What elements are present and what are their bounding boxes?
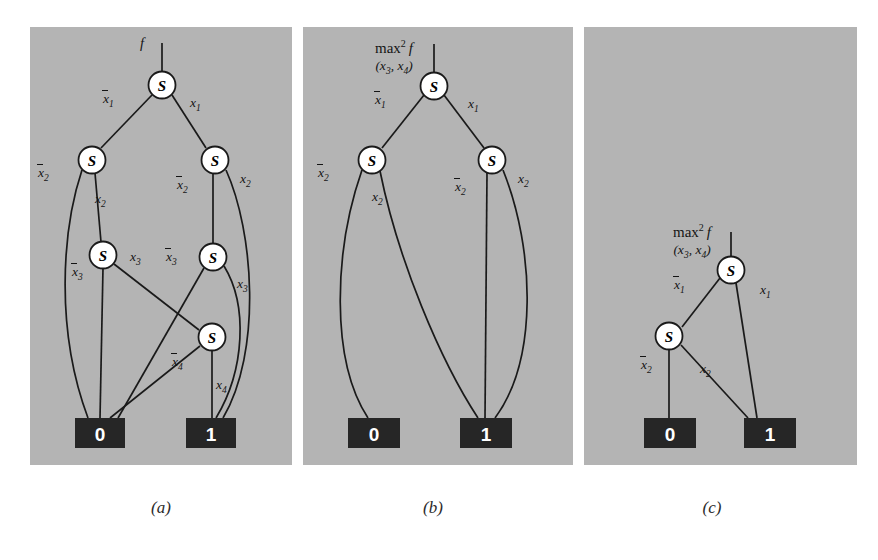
panel-a-terminal-0-label: 0 xyxy=(95,424,106,445)
panel-a-label-x2-pos-left: x2 xyxy=(95,192,106,209)
panel-c-terminal-1-label: 1 xyxy=(765,424,776,445)
panel-c-label-x1-pos: x1 xyxy=(760,283,771,300)
panel-a-root-function-label: f xyxy=(140,35,144,52)
panel-b-max-sup: 2 xyxy=(401,38,406,49)
panel-c-terminal-0-label: 0 xyxy=(665,424,676,445)
panel-c-label-x2-pos: x2 xyxy=(700,362,711,379)
panel-a-node-2-label: S xyxy=(88,153,96,169)
panel-b-root-max-label: max2 f (x3, x4) xyxy=(352,38,436,77)
panel-c-root-max-label: max2 f (x3, x4) xyxy=(650,222,734,261)
panel-c-max-sup: 2 xyxy=(699,222,704,233)
panel-b-max-text: max xyxy=(375,40,401,56)
panel-c-max-args: (x3, x4) xyxy=(650,242,734,261)
panel-b-node-1-label: S xyxy=(430,79,438,95)
panel-b-node-2-label: S xyxy=(368,153,376,169)
panel-a-node-1-label: S xyxy=(158,78,166,94)
panel-a-node-5-label: S xyxy=(209,250,217,266)
panel-c-max-fn: f xyxy=(707,224,711,240)
panel-a-node-4-label: S xyxy=(99,248,107,264)
panel-a-node-3-label: S xyxy=(211,153,219,169)
panel-a-node-6-label: S xyxy=(208,330,216,346)
panel-a-label-x1-neg: x1 xyxy=(103,92,114,109)
panel-c-label-x2-neg: x2 xyxy=(641,358,652,375)
panel-b-label-x2-pos-left: x2 xyxy=(372,190,383,207)
panel-b-label-x2-pos-right: x2 xyxy=(518,172,529,189)
panel-b-terminal-0-label: 0 xyxy=(369,424,380,445)
panel-b-node-3-label: S xyxy=(488,153,496,169)
panel-a-label-x2-neg-right: x2 xyxy=(177,178,188,195)
panel-c-label-x1-neg: x1 xyxy=(674,278,685,295)
panel-b-label-x2-neg-right: x2 xyxy=(455,180,466,197)
panel-a-label-x2-pos-right: x2 xyxy=(240,172,251,189)
panel-a-label-x3-neg-left: x3 xyxy=(72,265,83,282)
panel-b-max-args: (x3, x4) xyxy=(352,58,436,77)
panel-b-label-x1-pos: x1 xyxy=(468,97,479,114)
panel-b-terminal-1-label: 1 xyxy=(481,424,492,445)
panel-a-label-x1-pos: x1 xyxy=(190,96,201,113)
panel-c-node-1-label: S xyxy=(727,263,735,279)
panel-a-label-x3-neg-right: x3 xyxy=(166,250,177,267)
bdd-figure-svg: S S S S S S 0 1 xyxy=(0,0,878,560)
panel-b-label-x2-neg-left: x2 xyxy=(318,166,329,183)
panel-b-caption: (b) xyxy=(393,498,473,518)
panel-b-label-x1-neg: x1 xyxy=(375,93,386,110)
panel-a-label-x2-neg-left: x2 xyxy=(38,166,49,183)
panel-c-node-2-label: S xyxy=(665,329,673,345)
panel-c-max-text: max xyxy=(673,224,699,240)
panel-a-label-x4-neg: x4 xyxy=(172,355,183,372)
figure-canvas: S S S S S S 0 1 xyxy=(0,0,878,560)
panel-a-label-x3-pos-left: x3 xyxy=(130,250,141,267)
panel-c-caption: (c) xyxy=(672,498,752,518)
panel-a-label-x4-pos: x4 xyxy=(216,378,227,395)
panel-a-terminal-1-label: 1 xyxy=(206,424,217,445)
panel-b-max-fn: f xyxy=(409,40,413,56)
panel-a-label-x3-pos-right: x3 xyxy=(237,277,248,294)
panel-a-caption: (a) xyxy=(121,498,201,518)
